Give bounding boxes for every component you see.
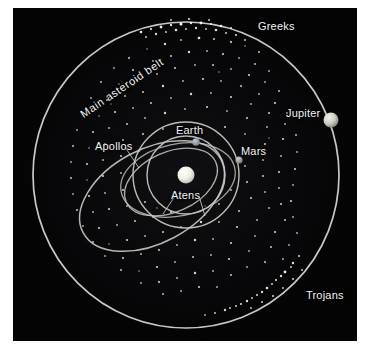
jupiter-body [324,113,339,128]
diagram-plate: Greeks Jupiter Mars Earth Apollos Atens … [13,8,357,341]
label-mars: Mars [241,145,266,157]
mars-body [235,156,242,163]
label-greeks: Greeks [258,20,295,32]
label-atens: Atens [171,189,200,201]
asteroid-belt-diagram: Greeks Jupiter Mars Earth Apollos Atens … [0,0,370,354]
label-trojans: Trojans [306,289,344,301]
sun-body [178,167,195,184]
label-jupiter: Jupiter [286,107,320,119]
label-apollos: Apollos [95,140,132,152]
label-earth: Earth [176,124,203,136]
earth-body [192,138,200,146]
